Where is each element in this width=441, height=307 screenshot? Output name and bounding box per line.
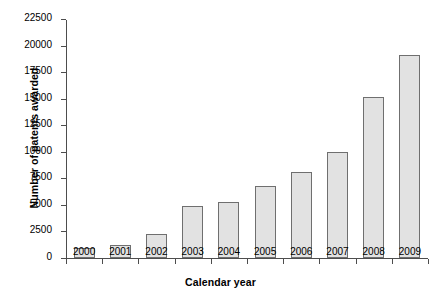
- x-axis-label-2007: 2007: [319, 246, 355, 257]
- bar-chart: Number of patents awarded 02500500075001…: [0, 0, 441, 307]
- y-tick-10000: 10000: [61, 152, 66, 153]
- plot-area: 0250050007500100001250015000175002000022…: [66, 20, 428, 259]
- y-axis-title: Number of patents awarded: [28, 28, 40, 248]
- bar-2007: [327, 152, 348, 258]
- y-tick-label-22500: 22500: [4, 12, 52, 23]
- x-tick-2: [138, 259, 139, 264]
- y-tick-2500: 2500: [61, 231, 66, 232]
- x-tick-7: [319, 259, 320, 264]
- y-tick-15000: 15000: [61, 99, 66, 100]
- x-axis-label-2003: 2003: [175, 246, 211, 257]
- x-axis-label-2005: 2005: [247, 246, 283, 257]
- x-tick-9: [392, 259, 393, 264]
- y-tick-label-17500: 17500: [4, 65, 52, 76]
- y-tick-12500: 12500: [61, 125, 66, 126]
- y-tick-label-5000: 5000: [4, 198, 52, 209]
- y-tick-label-12500: 12500: [4, 118, 52, 129]
- y-tick-20000: 20000: [61, 46, 66, 47]
- bar-2008: [363, 97, 384, 258]
- x-tick-5: [247, 259, 248, 264]
- x-tick-6: [283, 259, 284, 264]
- y-tick-label-0: 0: [4, 251, 52, 262]
- x-axis-title: Calendar year: [0, 276, 441, 288]
- x-tick-1: [102, 259, 103, 264]
- x-tick-0: [66, 259, 67, 264]
- x-axis-label-2002: 2002: [138, 246, 174, 257]
- x-tick-8: [356, 259, 357, 264]
- y-tick-label-7500: 7500: [4, 171, 52, 182]
- y-tick-7500: 7500: [61, 178, 66, 179]
- x-tick-10: [428, 259, 429, 264]
- y-tick-label-20000: 20000: [4, 39, 52, 50]
- x-axis-label-2009: 2009: [392, 246, 428, 257]
- y-tick-label-2500: 2500: [4, 224, 52, 235]
- y-tick-22500: 22500: [61, 19, 66, 20]
- x-axis-label-2008: 2008: [356, 246, 392, 257]
- x-tick-3: [175, 259, 176, 264]
- y-tick-label-10000: 10000: [4, 145, 52, 156]
- x-axis-label-2006: 2006: [283, 246, 319, 257]
- y-tick-label-15000: 15000: [4, 92, 52, 103]
- x-axis-label-2004: 2004: [211, 246, 247, 257]
- y-tick-5000: 5000: [61, 205, 66, 206]
- bar-2009: [399, 55, 420, 258]
- x-axis-label-2001: 2001: [102, 246, 138, 257]
- y-axis-line: [66, 20, 67, 259]
- x-tick-4: [211, 259, 212, 264]
- x-axis-label-2000: 2000: [66, 246, 102, 257]
- y-tick-17500: 17500: [61, 72, 66, 73]
